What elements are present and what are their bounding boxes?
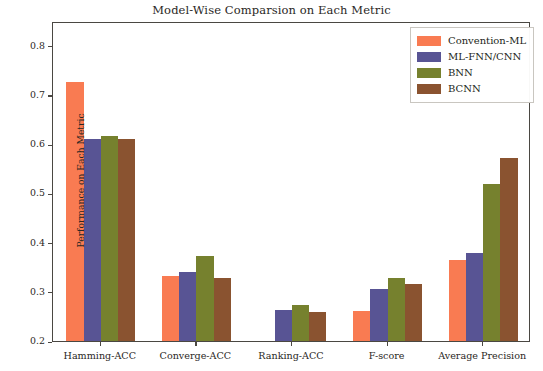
legend-swatch — [417, 84, 441, 94]
bar — [309, 312, 326, 341]
y-tick: 0.2 — [0, 342, 52, 343]
y-tick: 0.4 — [0, 244, 52, 245]
bar — [405, 284, 422, 341]
x-tick-label: Hamming-ACC — [64, 350, 137, 361]
legend-swatch — [417, 52, 441, 62]
x-tick-label: Converge-ACC — [160, 350, 232, 361]
bar — [196, 256, 213, 341]
y-tick-label: 0.3 — [30, 286, 45, 297]
y-tick: 0.6 — [0, 145, 52, 146]
bar — [275, 310, 292, 341]
legend-swatch — [417, 36, 441, 46]
y-tick-mark — [48, 342, 52, 343]
legend-label: BNN — [448, 68, 473, 78]
y-tick: 0.7 — [0, 96, 52, 97]
legend-item[interactable]: BNN — [417, 65, 526, 81]
y-tick-label: 0.4 — [30, 237, 45, 248]
bar — [162, 276, 179, 341]
bar — [179, 272, 196, 341]
bar — [388, 278, 405, 342]
y-tick-mark — [48, 292, 52, 293]
bar — [84, 139, 101, 341]
y-tick-mark — [48, 145, 52, 146]
bar — [118, 139, 135, 341]
y-tick-label: 0.2 — [30, 335, 45, 346]
chart-legend: Convention-MLML-FNN/CNNBNNBCNN — [410, 27, 534, 103]
bar — [483, 184, 500, 341]
legend-label: BCNN — [448, 84, 481, 94]
bar — [101, 136, 118, 341]
y-tick-mark — [48, 46, 52, 47]
y-axis-label: Performance on Each Metric — [75, 36, 86, 326]
y-tick: 0.3 — [0, 293, 52, 294]
legend-item[interactable]: BCNN — [417, 81, 526, 97]
x-tick-mark — [195, 342, 196, 346]
y-tick-label: 0.8 — [30, 40, 45, 51]
x-tick-mark — [291, 342, 292, 346]
chart-figure: Model-Wise Comparsion on Each Metric Per… — [0, 0, 543, 371]
bar — [353, 311, 370, 341]
x-tick-mark — [482, 342, 483, 346]
y-tick-mark — [48, 194, 52, 195]
bar — [292, 305, 309, 341]
x-tick-label: F-score — [369, 350, 405, 361]
x-tick-label: Average Precision — [438, 350, 526, 361]
x-tick-mark — [387, 342, 388, 346]
x-tick-mark — [100, 342, 101, 346]
chart-title: Model-Wise Comparsion on Each Metric — [0, 3, 543, 17]
bar — [449, 260, 466, 341]
y-tick-label: 0.5 — [30, 187, 45, 198]
legend-item[interactable]: ML-FNN/CNN — [417, 49, 526, 65]
y-tick-label: 0.7 — [30, 89, 45, 100]
legend-swatch — [417, 68, 441, 78]
y-tick-mark — [48, 243, 52, 244]
y-tick: 0.5 — [0, 194, 52, 195]
y-tick: 0.8 — [0, 47, 52, 48]
legend-label: ML-FNN/CNN — [448, 52, 521, 62]
bar — [500, 158, 517, 341]
y-tick-label: 0.6 — [30, 138, 45, 149]
bar — [466, 253, 483, 341]
bar — [370, 289, 387, 341]
y-tick-mark — [48, 95, 52, 96]
legend-label: Convention-ML — [448, 36, 526, 46]
bar — [214, 278, 231, 341]
x-tick-label: Ranking-ACC — [258, 350, 323, 361]
legend-item[interactable]: Convention-ML — [417, 33, 526, 49]
